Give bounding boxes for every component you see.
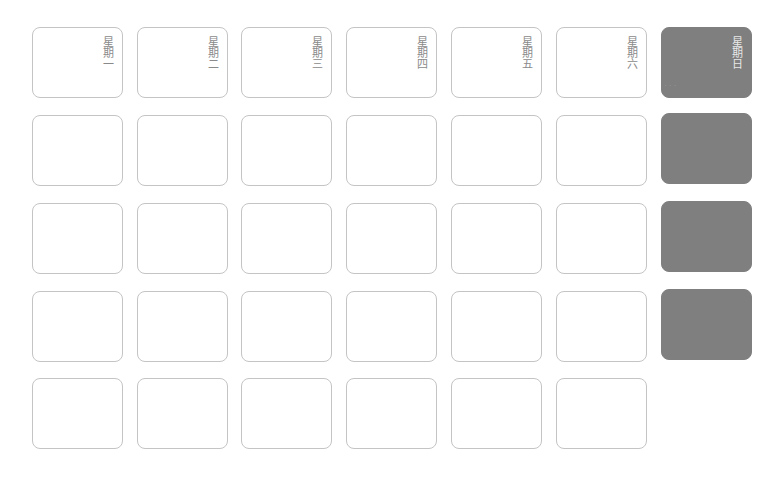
day-card-r4-fri[interactable] — [451, 291, 542, 362]
day-card-r5-sat[interactable] — [556, 378, 647, 449]
weekday-label-wed: 星期三 — [311, 36, 323, 69]
day-card-r1-wed[interactable]: 星期三 — [241, 27, 332, 98]
day-card-r5-mon[interactable] — [32, 378, 123, 449]
sunday-faint-text: ... — [664, 78, 745, 90]
day-card-r1-mon[interactable]: 星期一 — [32, 27, 123, 98]
weekday-label-fri: 星期五 — [521, 36, 533, 69]
day-card-r5-fri[interactable] — [451, 378, 542, 449]
day-card-r4-mon[interactable] — [32, 291, 123, 362]
day-card-r3-mon[interactable] — [32, 203, 123, 274]
day-card-r3-fri[interactable] — [451, 203, 542, 274]
day-card-r4-tue[interactable] — [137, 291, 228, 362]
day-card-r3-sun[interactable] — [661, 201, 752, 272]
day-card-r1-fri[interactable]: 星期五 — [451, 27, 542, 98]
day-card-r1-sun[interactable]: 星期日 ... — [661, 27, 752, 98]
day-card-r3-wed[interactable] — [241, 203, 332, 274]
day-card-r2-wed[interactable] — [241, 115, 332, 186]
day-card-r4-sat[interactable] — [556, 291, 647, 362]
day-card-r2-mon[interactable] — [32, 115, 123, 186]
day-card-r5-thu[interactable] — [346, 378, 437, 449]
weekday-label-sat: 星期六 — [626, 36, 638, 69]
day-card-r5-tue[interactable] — [137, 378, 228, 449]
day-card-r4-sun[interactable] — [661, 289, 752, 360]
day-card-r1-sat[interactable]: 星期六 — [556, 27, 647, 98]
day-card-r3-tue[interactable] — [137, 203, 228, 274]
day-card-r2-sun[interactable] — [661, 113, 752, 184]
day-card-r4-wed[interactable] — [241, 291, 332, 362]
weekday-label-tue: 星期二 — [207, 36, 219, 69]
weekday-label-sun: 星期日 — [731, 36, 743, 69]
weekday-label-mon: 星期一 — [102, 36, 114, 69]
day-card-r1-thu[interactable]: 星期四 — [346, 27, 437, 98]
day-card-r1-tue[interactable]: 星期二 — [137, 27, 228, 98]
day-card-r3-sat[interactable] — [556, 203, 647, 274]
day-card-r5-wed[interactable] — [241, 378, 332, 449]
calendar-grid: 星期一 星期二 星期三 星期四 星期五 星期六 星期日 ... — [0, 0, 778, 477]
day-card-r2-thu[interactable] — [346, 115, 437, 186]
day-card-r4-thu[interactable] — [346, 291, 437, 362]
day-card-r2-tue[interactable] — [137, 115, 228, 186]
day-card-r2-sat[interactable] — [556, 115, 647, 186]
day-card-r2-fri[interactable] — [451, 115, 542, 186]
weekday-label-thu: 星期四 — [416, 36, 428, 69]
day-card-r3-thu[interactable] — [346, 203, 437, 274]
